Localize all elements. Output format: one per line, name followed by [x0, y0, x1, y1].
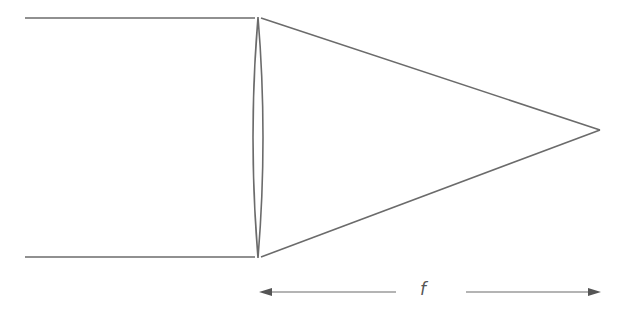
arrowhead-right-icon	[588, 288, 601, 296]
arrowhead-left-icon	[259, 288, 272, 296]
lens-diagram	[0, 0, 625, 311]
converging-ray-bottom	[261, 130, 600, 257]
lens-icon	[253, 17, 263, 258]
converging-ray-top	[261, 18, 600, 130]
focal-length-label: f	[420, 279, 426, 299]
